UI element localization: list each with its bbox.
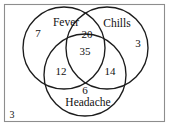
- region-count-all-three: 35: [80, 46, 91, 57]
- region-count-outside-all: 3: [10, 110, 15, 120]
- region-count-chills-headache: 14: [105, 66, 116, 77]
- set-label-headache: Headache: [65, 97, 110, 109]
- venn-diagram-canvas: [0, 0, 170, 129]
- region-count-headache-only: 6: [82, 85, 88, 96]
- region-count-chills-only: 3: [135, 38, 141, 49]
- set-label-chills: Chills: [103, 18, 130, 30]
- region-count-fever-chills: 20: [82, 29, 93, 40]
- set-label-fever: Fever: [53, 17, 79, 29]
- region-count-fever-only: 7: [35, 28, 41, 39]
- venn-diagram-figure: Fever Chills Headache 7 3 20 35 12 14 6 …: [0, 0, 170, 129]
- region-count-fever-headache: 12: [56, 66, 67, 77]
